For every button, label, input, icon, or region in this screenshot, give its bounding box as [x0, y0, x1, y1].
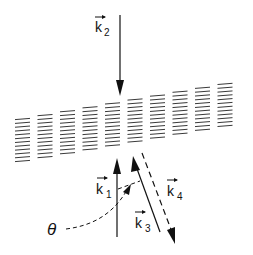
theta-label: θ	[47, 220, 57, 239]
grating-column	[60, 111, 75, 154]
grating-column	[173, 91, 188, 134]
k1-label: k 1	[96, 176, 112, 200]
svg-text:k: k	[167, 183, 175, 199]
k2-label: k 2	[95, 15, 110, 38]
svg-text:2: 2	[104, 27, 110, 38]
svg-text:1: 1	[106, 189, 112, 200]
grating-column	[218, 83, 233, 126]
svg-text:k: k	[135, 215, 143, 231]
k3-label: k 3	[135, 210, 151, 234]
grating	[15, 83, 233, 161]
grating-column	[195, 87, 210, 130]
k4-label: k 4	[167, 178, 183, 202]
grating-column	[38, 115, 53, 158]
svg-text:4: 4	[177, 191, 183, 202]
k1-vector	[113, 158, 121, 237]
grating-column	[15, 118, 30, 161]
svg-text:3: 3	[145, 223, 151, 234]
svg-text:k: k	[95, 19, 103, 35]
svg-text:k: k	[96, 181, 104, 197]
theta-angle-arrow	[66, 181, 140, 229]
grating-column	[83, 107, 98, 150]
grating-column	[105, 103, 120, 146]
k2-vector	[116, 15, 124, 96]
grating-diagram: k 2 k 1 k 3 k 4 θ	[0, 0, 253, 255]
grating-column	[150, 95, 165, 138]
grating-column	[128, 99, 143, 142]
